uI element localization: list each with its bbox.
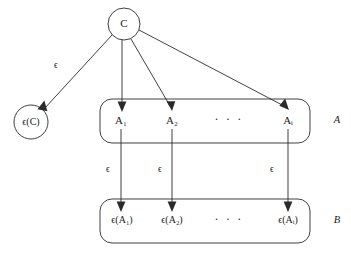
edge-a2-to-eps-a2: ϵ — [158, 129, 176, 212]
edge-label-eps-c: ϵ — [54, 60, 58, 70]
node-c: C — [108, 8, 140, 40]
edge-c-to-a1-arrowhead — [118, 102, 127, 113]
edge-a2-to-eps-a2-arrowhead — [168, 202, 177, 213]
edge-label-a2: ϵ — [158, 164, 162, 174]
group-a-outline — [100, 99, 310, 143]
diagram-canvas: ϵ ϵ ϵ — [0, 0, 351, 254]
edge-ai-to-eps-ai-arrowhead — [284, 202, 293, 213]
edge-c-to-a2-arrowhead — [165, 99, 176, 111]
node-eps-c: ϵ(C) — [14, 105, 48, 139]
edge-c-to-ai — [139, 30, 291, 110]
group-a-ellipsis: · · · — [215, 112, 244, 126]
edge-c-to-eps-c-arrowhead — [37, 101, 51, 116]
diagram-svg: ϵ ϵ ϵ — [0, 0, 351, 254]
node-eps-a2-label: ϵ(A₂) — [161, 214, 182, 226]
group-box-b: ϵ(A₁) ϵ(A₂) · · · ϵ(Aᵢ) B — [100, 199, 341, 243]
edge-c-to-a1 — [118, 40, 127, 112]
edge-c-to-a2 — [131, 39, 175, 111]
node-ai-label: Aᵢ — [283, 114, 293, 126]
edge-c-to-eps-c: ϵ — [37, 35, 112, 115]
node-eps-ai-label: ϵ(Aᵢ) — [278, 214, 298, 226]
group-a-name: A — [333, 114, 341, 125]
node-eps-c-label: ϵ(C) — [22, 116, 39, 128]
node-a1-label: A₁ — [115, 114, 127, 126]
edge-label-ai: ϵ — [270, 164, 274, 174]
edge-c-to-ai-line — [139, 30, 286, 107]
node-eps-a1-label: ϵ(A₁) — [111, 214, 132, 226]
group-b-ellipsis: · · · — [215, 212, 244, 226]
edge-a1-to-eps-a1-arrowhead — [117, 202, 126, 213]
edge-c-to-a2-line — [131, 39, 170, 105]
edge-c-to-eps-c-line — [45, 35, 113, 109]
edge-label-a1: ϵ — [106, 164, 110, 174]
edge-ai-to-eps-ai: ϵ — [270, 129, 292, 212]
group-box-a: A₁ A₂ · · · Aᵢ A — [100, 99, 341, 143]
group-b-name: B — [334, 214, 341, 225]
node-a2-label: A₂ — [166, 114, 178, 126]
node-c-label: C — [120, 17, 127, 29]
